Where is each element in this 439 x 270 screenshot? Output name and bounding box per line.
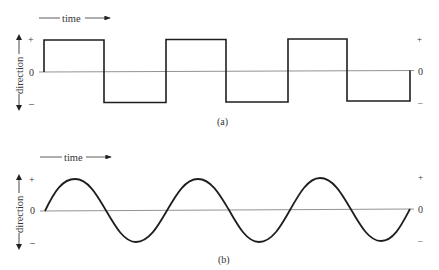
time-arrow-a: time (39, 13, 110, 24)
arrow-up-icon (16, 174, 22, 180)
tick-zero-left-a: 0 (29, 67, 34, 78)
caption-a: (a) (217, 116, 228, 128)
direction-arrow-a: direction (14, 34, 25, 111)
tick-minus-left-b: – (29, 237, 36, 248)
tick-zero-right-a: 0 (418, 66, 423, 77)
panel-b-sine-wave: time direction + 0 – + 0 – (b) (14, 152, 424, 267)
tick-minus-left-a: – (28, 98, 35, 109)
direction-label-b: direction (14, 195, 25, 233)
tick-plus-left-a: + (28, 34, 34, 45)
tick-plus-right-a: + (417, 34, 422, 44)
time-arrow-b: time (40, 152, 111, 163)
time-label-a: time (62, 13, 81, 24)
time-label-b: time (64, 152, 83, 163)
tick-zero-right-b: 0 (418, 204, 423, 215)
panel-a-square-wave: time direction + 0 – + 0 – (a) (14, 13, 424, 129)
tick-minus-right-b: – (417, 235, 423, 245)
tick-minus-right-a: – (417, 97, 423, 107)
waveform-figure: time direction + 0 – + 0 – (a) time (0, 0, 439, 270)
caption-b: (b) (218, 254, 230, 266)
direction-arrow-b: direction (14, 174, 25, 250)
direction-label-a: direction (14, 56, 25, 94)
tick-plus-right-b: + (418, 172, 423, 182)
arrow-up-icon (16, 34, 22, 40)
zero-axis-b (40, 209, 414, 211)
tick-plus-left-b: + (29, 174, 35, 185)
arrow-down-icon (16, 105, 22, 111)
tick-zero-left-b: 0 (30, 205, 35, 216)
arrow-down-icon (16, 244, 22, 250)
